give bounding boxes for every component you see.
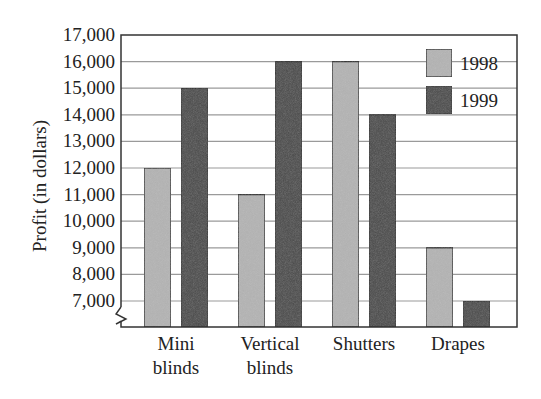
legend-swatch-1999: [426, 86, 452, 114]
y-tick-label: 12,000: [63, 157, 115, 178]
bar-chart: 7,0008,0009,00010,00011,00012,00013,0001…: [0, 0, 541, 399]
y-tick-label: 16,000: [63, 51, 115, 72]
y-tick-label: 14,000: [63, 104, 115, 125]
bar-1999-shutters: [369, 115, 396, 327]
x-category-label: Shutters: [333, 333, 395, 354]
bar-1999-mini-blinds: [181, 88, 208, 327]
x-category-label: blinds: [247, 357, 293, 378]
y-axis-label: Profit (in dollars): [29, 120, 51, 252]
y-tick-label: 9,000: [72, 237, 115, 258]
y-tick-label: 13,000: [63, 130, 115, 151]
bar-1998-mini-blinds: [144, 168, 171, 327]
legend-label-1999: 1999: [460, 90, 498, 111]
legend-swatch-1998: [426, 49, 452, 77]
y-axis-ticks: 7,0008,0009,00010,00011,00012,00013,0001…: [63, 24, 115, 311]
legend: 19981999: [426, 49, 498, 114]
x-category-label: blinds: [153, 357, 199, 378]
legend-label-1998: 1998: [460, 53, 498, 74]
plot-frame: [116, 35, 517, 327]
y-tick-label: 17,000: [63, 24, 115, 45]
bar-1998-vertical-blinds: [238, 195, 265, 327]
y-tick-label: 8,000: [72, 263, 115, 284]
bar-1998-drapes: [426, 248, 453, 327]
y-tick-label: 11,000: [63, 184, 115, 205]
x-category-label: Vertical: [240, 333, 299, 354]
x-category-label: Drapes: [431, 333, 485, 354]
axis-break-zigzag-icon: [116, 307, 126, 324]
bar-1999-drapes: [463, 301, 490, 327]
x-category-label: Mini: [158, 333, 195, 354]
y-tick-label: 15,000: [63, 77, 115, 98]
x-axis-labels: MiniblindsVerticalblindsShuttersDrapes: [153, 333, 485, 378]
bar-1998-shutters: [332, 62, 359, 327]
y-tick-label: 7,000: [72, 290, 115, 311]
y-tick-label: 10,000: [63, 210, 115, 231]
bar-1999-vertical-blinds: [275, 62, 302, 327]
